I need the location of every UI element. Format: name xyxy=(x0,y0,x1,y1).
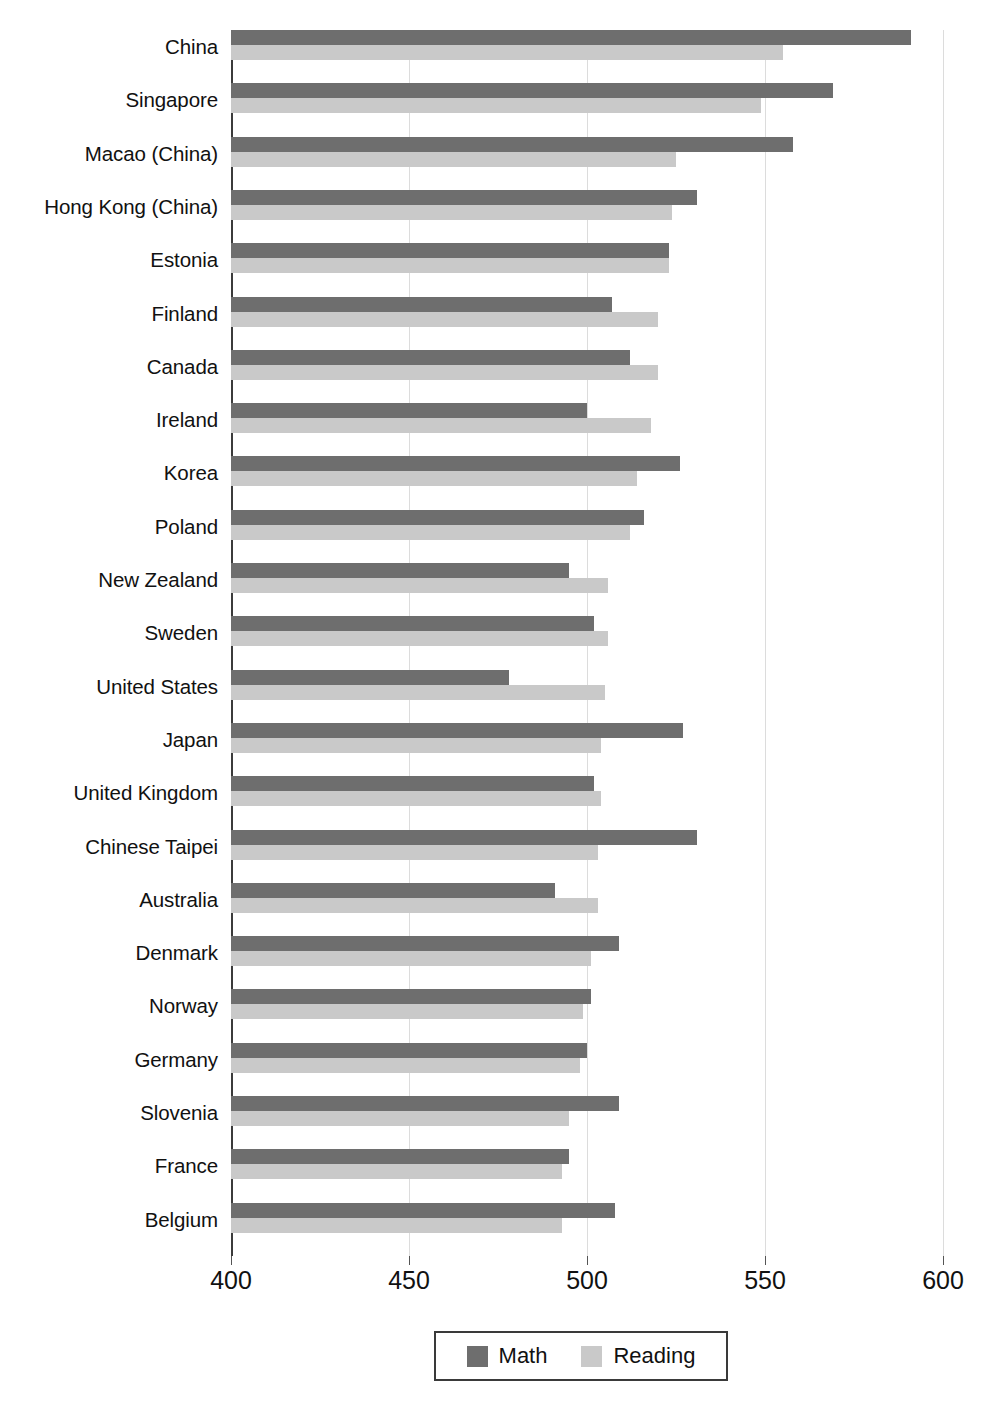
bar-row: United Kingdom xyxy=(0,776,1003,829)
category-label: Denmark xyxy=(0,943,218,964)
category-label: Canada xyxy=(0,357,218,378)
category-label: Belgium xyxy=(0,1210,218,1231)
bar-math xyxy=(231,1203,615,1218)
bar-row: Canada xyxy=(0,350,1003,403)
category-label: United States xyxy=(0,677,218,698)
bar-row: Hong Kong (China) xyxy=(0,190,1003,243)
legend-label-math: Math xyxy=(499,1345,548,1367)
bar-row: Estonia xyxy=(0,243,1003,296)
bar-row: United States xyxy=(0,670,1003,723)
bar-math xyxy=(231,510,644,525)
bar-reading xyxy=(231,1004,583,1019)
bar-reading xyxy=(231,205,672,220)
bar-math xyxy=(231,297,612,312)
category-label: Poland xyxy=(0,517,218,538)
category-label: Singapore xyxy=(0,90,218,111)
bar-math xyxy=(231,989,591,1004)
bar-math xyxy=(231,83,833,98)
bar-row: France xyxy=(0,1149,1003,1202)
bar-row: Sweden xyxy=(0,616,1003,669)
bar-row: Norway xyxy=(0,989,1003,1042)
category-label: Japan xyxy=(0,730,218,751)
bar-math xyxy=(231,30,911,45)
x-tick-mark xyxy=(231,1256,232,1265)
category-label: Estonia xyxy=(0,250,218,271)
x-tick-label: 450 xyxy=(388,1268,430,1293)
bar-math xyxy=(231,776,594,791)
bar-math xyxy=(231,137,793,152)
bar-reading xyxy=(231,685,605,700)
bar-row: Ireland xyxy=(0,403,1003,456)
bar-row: Slovenia xyxy=(0,1096,1003,1149)
bar-reading xyxy=(231,471,637,486)
category-label: New Zealand xyxy=(0,570,218,591)
bar-reading xyxy=(231,525,630,540)
bar-row: Poland xyxy=(0,510,1003,563)
category-label: Korea xyxy=(0,463,218,484)
bar-reading xyxy=(231,1058,580,1073)
x-tick-mark xyxy=(943,1256,944,1265)
bar-reading xyxy=(231,1218,562,1233)
bar-row: Australia xyxy=(0,883,1003,936)
bar-reading xyxy=(231,898,598,913)
bar-row: Denmark xyxy=(0,936,1003,989)
x-tick-label: 500 xyxy=(566,1268,608,1293)
bar-math xyxy=(231,1043,587,1058)
legend-swatch-reading xyxy=(581,1346,602,1367)
bar-reading xyxy=(231,578,608,593)
bar-math xyxy=(231,830,697,845)
bar-row: Finland xyxy=(0,297,1003,350)
legend-swatch-math xyxy=(467,1346,488,1367)
category-label: Macao (China) xyxy=(0,144,218,165)
x-tick-label: 550 xyxy=(744,1268,786,1293)
bar-reading xyxy=(231,791,601,806)
bar-reading xyxy=(231,365,658,380)
bar-reading xyxy=(231,418,651,433)
x-tick-mark xyxy=(409,1256,410,1265)
bar-math xyxy=(231,1096,619,1111)
category-label: Australia xyxy=(0,890,218,911)
x-tick-mark xyxy=(765,1256,766,1265)
bar-reading xyxy=(231,951,591,966)
bar-math xyxy=(231,403,587,418)
x-tick-mark xyxy=(587,1256,588,1265)
bar-row: Germany xyxy=(0,1043,1003,1096)
x-axis: 400450500550600 xyxy=(0,1256,1003,1296)
bar-reading xyxy=(231,152,676,167)
bar-reading xyxy=(231,258,669,273)
bar-math xyxy=(231,1149,569,1164)
bar-row: Chinese Taipei xyxy=(0,830,1003,883)
bar-row: New Zealand xyxy=(0,563,1003,616)
legend-entry-math: Math xyxy=(467,1345,548,1367)
bar-row: Macao (China) xyxy=(0,137,1003,190)
category-label: Finland xyxy=(0,304,218,325)
bar-math xyxy=(231,243,669,258)
bar-reading xyxy=(231,845,598,860)
bar-row: China xyxy=(0,30,1003,83)
category-label: Norway xyxy=(0,996,218,1017)
bar-math xyxy=(231,563,569,578)
category-label: Slovenia xyxy=(0,1103,218,1124)
bar-math xyxy=(231,350,630,365)
bar-math xyxy=(231,936,619,951)
category-label: Sweden xyxy=(0,623,218,644)
bar-row: Korea xyxy=(0,456,1003,509)
bar-math xyxy=(231,456,680,471)
category-label: France xyxy=(0,1156,218,1177)
x-tick-label: 600 xyxy=(922,1268,964,1293)
bar-reading xyxy=(231,98,761,113)
bar-reading xyxy=(231,738,601,753)
bar-math xyxy=(231,616,594,631)
bar-math xyxy=(231,670,509,685)
bar-row: Japan xyxy=(0,723,1003,776)
x-tick-label: 400 xyxy=(210,1268,252,1293)
bar-math xyxy=(231,723,683,738)
chart-legend: Math Reading xyxy=(434,1331,728,1381)
bar-reading xyxy=(231,631,608,646)
pisa-scores-bar-chart: ChinaSingaporeMacao (China)Hong Kong (Ch… xyxy=(0,0,1003,1401)
bar-row: Singapore xyxy=(0,83,1003,136)
bar-reading xyxy=(231,45,783,60)
category-label: China xyxy=(0,37,218,58)
legend-entry-reading: Reading xyxy=(581,1345,695,1367)
bar-reading xyxy=(231,312,658,327)
